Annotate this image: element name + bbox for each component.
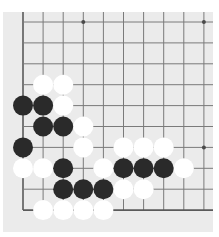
star-point-icon xyxy=(202,20,206,24)
white-stone[interactable] xyxy=(174,158,194,178)
black-stone[interactable] xyxy=(33,96,53,116)
black-stone[interactable] xyxy=(73,179,93,199)
black-stone[interactable] xyxy=(93,179,113,199)
black-stone[interactable] xyxy=(114,158,134,178)
white-stone[interactable] xyxy=(33,75,53,95)
black-stone[interactable] xyxy=(53,117,73,137)
black-stone[interactable] xyxy=(134,158,154,178)
white-stone[interactable] xyxy=(73,200,93,220)
white-stone[interactable] xyxy=(73,117,93,137)
go-board-grid[interactable] xyxy=(0,0,219,237)
black-stone[interactable] xyxy=(13,137,33,157)
white-stone[interactable] xyxy=(53,200,73,220)
white-stone[interactable] xyxy=(93,200,113,220)
white-stone[interactable] xyxy=(53,75,73,95)
white-stone[interactable] xyxy=(73,137,93,157)
star-point-icon xyxy=(202,145,206,149)
black-stone[interactable] xyxy=(154,158,174,178)
white-stone[interactable] xyxy=(93,158,113,178)
white-stone[interactable] xyxy=(134,179,154,199)
white-stone[interactable] xyxy=(134,137,154,157)
black-stone[interactable] xyxy=(53,179,73,199)
white-stone[interactable] xyxy=(33,158,53,178)
white-stone[interactable] xyxy=(33,200,53,220)
white-stone[interactable] xyxy=(13,158,33,178)
black-stone[interactable] xyxy=(33,117,53,137)
grid-lines xyxy=(23,12,213,210)
white-stone[interactable] xyxy=(114,179,134,199)
white-stone[interactable] xyxy=(53,96,73,116)
star-point-icon xyxy=(81,20,85,24)
white-stone[interactable] xyxy=(154,137,174,157)
black-stone[interactable] xyxy=(13,96,33,116)
white-stone[interactable] xyxy=(114,137,134,157)
black-stone[interactable] xyxy=(53,158,73,178)
